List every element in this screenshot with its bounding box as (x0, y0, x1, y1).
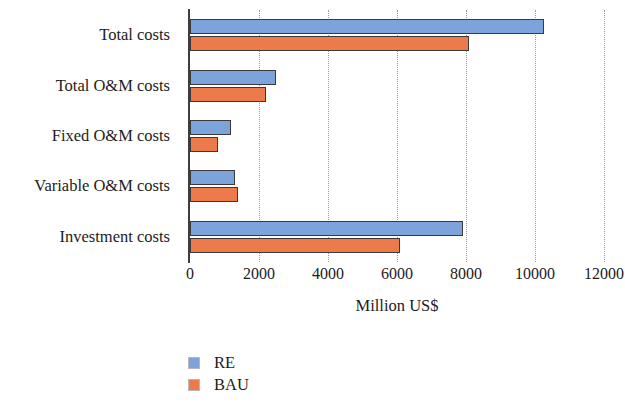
bar-bau-total-o-m-costs (190, 87, 266, 102)
category-label-total-costs: Total costs (99, 27, 170, 44)
category-label-investment-costs: Investment costs (60, 229, 170, 246)
bar-bau-investment-costs (190, 238, 400, 253)
bar-re-total-o-m-costs (190, 70, 276, 85)
bar-re-variable-o-m-costs (190, 170, 235, 185)
chart-legend: REBAU (188, 352, 249, 396)
tick-label-4000: 4000 (312, 266, 344, 282)
bar-re-investment-costs (190, 221, 463, 236)
category-label-total-o-m-costs: Total O&M costs (56, 78, 170, 95)
tick-label-8000: 8000 (450, 266, 482, 282)
category-label-fixed-o-m-costs: Fixed O&M costs (52, 128, 170, 145)
bar-re-fixed-o-m-costs (190, 120, 231, 135)
legend-item-re[interactable]: RE (188, 352, 249, 374)
legend-label-bau: BAU (214, 377, 249, 394)
bar-bau-fixed-o-m-costs (190, 137, 218, 152)
legend-swatch-re (188, 357, 200, 369)
plot-area (190, 10, 604, 262)
tick-label-12000: 12000 (584, 266, 624, 282)
tick-label-2000: 2000 (243, 266, 275, 282)
bar-bau-total-costs (190, 36, 469, 51)
bar-chart: Total costsTotal O&M costsFixed O&M cost… (0, 0, 625, 403)
bar-bau-variable-o-m-costs (190, 187, 238, 202)
gridline-10000 (535, 10, 537, 262)
legend-item-bau[interactable]: BAU (188, 374, 249, 396)
tick-label-10000: 10000 (515, 266, 555, 282)
category-label-variable-o-m-costs: Variable O&M costs (34, 178, 170, 195)
category-axis-labels: Total costsTotal O&M costsFixed O&M cost… (0, 10, 178, 262)
tick-label-6000: 6000 (381, 266, 413, 282)
value-axis-tick-labels: 020004000600080001000012000 (190, 266, 604, 288)
x-axis-title: Million US$ (190, 296, 604, 316)
tick-label-0: 0 (186, 266, 194, 282)
legend-swatch-bau (188, 379, 200, 391)
gridline-12000 (604, 10, 606, 262)
legend-label-re: RE (214, 355, 235, 372)
bar-re-total-costs (190, 19, 544, 34)
